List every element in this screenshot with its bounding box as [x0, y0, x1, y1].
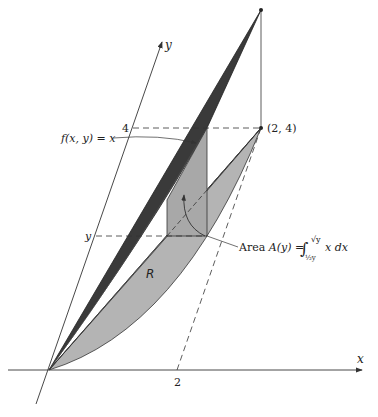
area-leader: [207, 236, 238, 247]
region-r-upper: [49, 128, 261, 370]
y-axis-label: y: [164, 38, 172, 52]
upper-limit: √y: [311, 235, 321, 244]
x-axis-label: x: [357, 352, 364, 366]
apex-point: [259, 8, 263, 12]
area-formula: Area A(y) =: [238, 241, 304, 254]
y-tick-4: 4: [122, 122, 129, 135]
y-tick-var: y: [84, 230, 92, 243]
area-prefix: Area: [238, 241, 269, 254]
lower-limit: ½y: [305, 254, 316, 262]
x-tick-2: 2: [174, 376, 181, 389]
integrand: x dx: [325, 241, 349, 254]
double-integral-diagram: x y 2 4 y f(x, y) = x (2, 4) R Area A(y)…: [0, 0, 378, 417]
point-label: (2, 4): [267, 122, 297, 135]
region-label: R: [146, 267, 154, 281]
surface-label: f(x, y) = x: [60, 132, 116, 145]
area-func: A(y): [268, 241, 292, 254]
